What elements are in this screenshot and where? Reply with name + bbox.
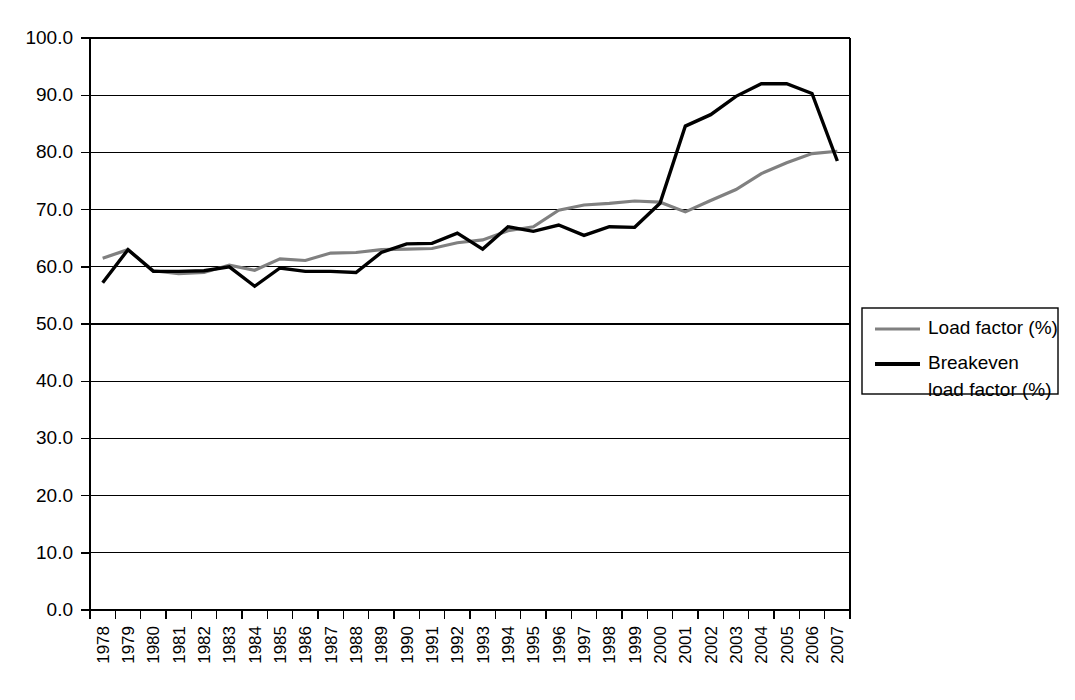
x-tick-label: 2000 — [651, 626, 670, 664]
legend-label: Breakeven — [928, 352, 1019, 373]
x-tick-label: 1991 — [423, 626, 442, 664]
y-tick-label: 30.0 — [36, 427, 73, 448]
x-axis — [90, 38, 850, 619]
x-tick-label: 2002 — [702, 626, 721, 664]
series-line-breakeven-load-factor — [103, 84, 838, 286]
line-chart: 0.010.020.030.040.050.060.070.080.090.01… — [0, 0, 1075, 700]
y-tick-label: 90.0 — [36, 84, 73, 105]
y-tick-label: 50.0 — [36, 313, 73, 334]
x-tick-label: 1993 — [474, 626, 493, 664]
x-tick-label: 1998 — [600, 626, 619, 664]
x-tick-label: 1988 — [347, 626, 366, 664]
x-tick-label: 1999 — [626, 626, 645, 664]
x-tick-label: 1995 — [524, 626, 543, 664]
y-axis — [81, 38, 90, 610]
x-tick-label: 1984 — [246, 626, 265, 664]
y-tick-label: 10.0 — [36, 542, 73, 563]
x-tick-label: 1997 — [575, 626, 594, 664]
y-tick-labels: 0.010.020.030.040.050.060.070.080.090.01… — [25, 27, 73, 620]
x-tick-label: 2004 — [752, 626, 771, 664]
x-tick-label: 1979 — [119, 626, 138, 664]
x-tick-label: 2006 — [803, 626, 822, 664]
y-tick-label: 60.0 — [36, 256, 73, 277]
x-tick-label: 1989 — [372, 626, 391, 664]
x-tick-label: 1985 — [271, 626, 290, 664]
x-tick-label: 1980 — [144, 626, 163, 664]
legend-label: Load factor (%) — [928, 317, 1058, 338]
x-tick-label: 1986 — [296, 626, 315, 664]
x-tick-label: 2007 — [828, 626, 847, 664]
x-tick-label: 1987 — [322, 626, 341, 664]
legend-label: load factor (%) — [928, 379, 1052, 400]
x-tick-label: 1994 — [499, 626, 518, 664]
plot-series — [103, 84, 838, 286]
chart-container: 0.010.020.030.040.050.060.070.080.090.01… — [0, 0, 1075, 700]
y-tick-label: 70.0 — [36, 199, 73, 220]
x-tick-label: 1996 — [550, 626, 569, 664]
x-tick-label: 2003 — [727, 626, 746, 664]
x-tick-label: 2005 — [778, 626, 797, 664]
x-tick-label: 2001 — [676, 626, 695, 664]
y-tick-label: 40.0 — [36, 370, 73, 391]
x-tick-labels: 1978197919801981198219831984198519861987… — [94, 626, 848, 664]
x-tick-label: 1983 — [220, 626, 239, 664]
x-tick-label: 1982 — [195, 626, 214, 664]
x-tick-label: 1992 — [448, 626, 467, 664]
y-tick-label: 0.0 — [47, 599, 73, 620]
gridlines — [90, 38, 850, 610]
chart-legend: Load factor (%)Breakevenload factor (%) — [862, 308, 1058, 400]
x-tick-label: 1981 — [170, 626, 189, 664]
series-line-load-factor — [103, 151, 838, 273]
y-tick-label: 20.0 — [36, 485, 73, 506]
x-tick-label: 1990 — [398, 626, 417, 664]
y-tick-label: 100.0 — [25, 27, 73, 48]
x-tick-label: 1978 — [94, 626, 113, 664]
y-tick-label: 80.0 — [36, 141, 73, 162]
